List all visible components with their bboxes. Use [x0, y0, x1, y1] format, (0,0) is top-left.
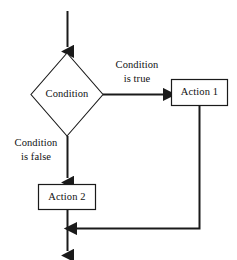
- condition-label: Condition: [30, 87, 104, 100]
- false-branch-label-line2: is false: [8, 150, 64, 164]
- true-branch-label-line1: Condition: [104, 58, 170, 72]
- false-branch-label: Condition is false: [8, 136, 64, 164]
- false-branch-label-line1: Condition: [8, 136, 64, 150]
- action2-label: Action 2: [38, 190, 96, 203]
- true-branch-label-line2: is true: [104, 72, 170, 86]
- flowchart-canvas: Condition Action 1 Action 2 Condition is…: [0, 0, 237, 260]
- flowchart-svg: [0, 0, 237, 260]
- action1-label: Action 1: [171, 85, 228, 98]
- true-branch-label: Condition is true: [104, 58, 170, 86]
